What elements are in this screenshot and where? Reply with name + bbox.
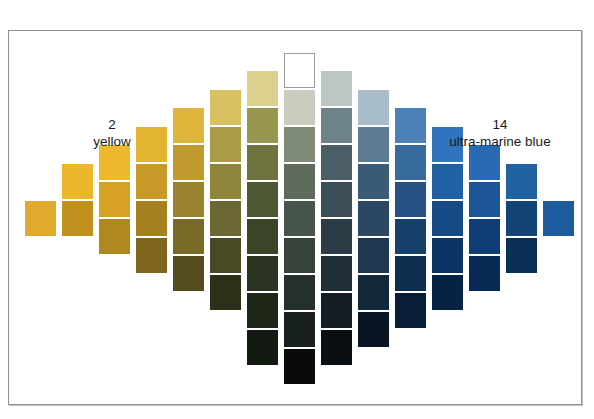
color-swatch-c12-r2 bbox=[432, 164, 463, 199]
color-swatch-c5-r5 bbox=[173, 256, 204, 291]
color-swatch-c7-r5 bbox=[247, 219, 278, 254]
color-swatch-c3-r2 bbox=[99, 182, 130, 217]
color-swatch-c5-r2 bbox=[173, 145, 204, 180]
axis-label-right-name: ultra-marine blue bbox=[417, 133, 583, 150]
color-swatch-c6-r6 bbox=[210, 275, 241, 310]
color-swatch-c10-r2 bbox=[358, 127, 389, 162]
color-swatch-c9-r7 bbox=[321, 293, 352, 328]
color-swatch-c9-r2 bbox=[321, 108, 352, 143]
color-swatch-c11-r6 bbox=[395, 293, 426, 328]
color-swatch-c8-r7 bbox=[284, 275, 315, 310]
color-swatch-c3-r1 bbox=[99, 145, 130, 180]
color-swatch-c7-r7 bbox=[247, 293, 278, 328]
color-swatch-c6-r3 bbox=[210, 164, 241, 199]
color-swatch-c9-r1 bbox=[321, 71, 352, 106]
color-swatch-c9-r3 bbox=[321, 145, 352, 180]
color-swatch-c10-r3 bbox=[358, 164, 389, 199]
color-swatch-c10-r4 bbox=[358, 201, 389, 236]
color-swatch-c3-r3 bbox=[99, 219, 130, 254]
color-swatch-c9-r8 bbox=[321, 330, 352, 365]
color-swatch-c11-r2 bbox=[395, 145, 426, 180]
color-swatch-c7-r8 bbox=[247, 330, 278, 365]
color-swatch-c14-r2 bbox=[506, 201, 537, 236]
color-swatch-c8-r5 bbox=[284, 201, 315, 236]
color-swatch-c8-r2 bbox=[284, 90, 315, 125]
color-swatch-c9-r5 bbox=[321, 219, 352, 254]
axis-label-right-number: 14 bbox=[417, 116, 583, 133]
color-swatch-c1-r1 bbox=[25, 201, 56, 236]
color-swatch-c2-r2 bbox=[62, 201, 93, 236]
color-swatch-c10-r1 bbox=[358, 90, 389, 125]
color-swatch-c5-r3 bbox=[173, 182, 204, 217]
color-swatch-c9-r4 bbox=[321, 182, 352, 217]
color-swatch-c8-r9 bbox=[284, 349, 315, 384]
swatch-grid bbox=[9, 31, 583, 406]
color-swatch-c4-r4 bbox=[136, 238, 167, 273]
color-swatch-c14-r1 bbox=[506, 164, 537, 199]
color-swatch-c13-r3 bbox=[469, 219, 500, 254]
color-swatch-c2-r1 bbox=[62, 164, 93, 199]
color-swatch-c5-r4 bbox=[173, 219, 204, 254]
color-swatch-c7-r4 bbox=[247, 182, 278, 217]
color-chart-page: 2 yellow 14 ultra-marine blue bbox=[0, 0, 594, 419]
color-swatch-c8-r1 bbox=[284, 53, 315, 88]
color-swatch-c13-r1 bbox=[469, 145, 500, 180]
axis-label-right: 14 ultra-marine blue bbox=[417, 116, 583, 150]
color-swatch-c10-r5 bbox=[358, 238, 389, 273]
color-plate-frame: 2 yellow 14 ultra-marine blue bbox=[8, 30, 582, 405]
color-swatch-c6-r1 bbox=[210, 90, 241, 125]
color-swatch-c6-r2 bbox=[210, 127, 241, 162]
color-swatch-c4-r3 bbox=[136, 201, 167, 236]
color-swatch-c11-r4 bbox=[395, 219, 426, 254]
color-swatch-c12-r4 bbox=[432, 238, 463, 273]
color-swatch-c5-r1 bbox=[173, 108, 204, 143]
color-swatch-c8-r8 bbox=[284, 312, 315, 347]
color-swatch-c13-r2 bbox=[469, 182, 500, 217]
color-swatch-c10-r6 bbox=[358, 275, 389, 310]
color-swatch-c9-r6 bbox=[321, 256, 352, 291]
color-swatch-c8-r3 bbox=[284, 127, 315, 162]
axis-label-left-name: yellow bbox=[57, 133, 167, 150]
color-swatch-c4-r2 bbox=[136, 164, 167, 199]
color-swatch-c7-r6 bbox=[247, 256, 278, 291]
color-swatch-c13-r4 bbox=[469, 256, 500, 291]
page-top-caption bbox=[100, 0, 320, 7]
color-swatch-c10-r7 bbox=[358, 312, 389, 347]
color-swatch-c12-r5 bbox=[432, 275, 463, 310]
axis-label-left: 2 yellow bbox=[57, 116, 167, 150]
color-swatch-c11-r5 bbox=[395, 256, 426, 291]
axis-label-left-number: 2 bbox=[57, 116, 167, 133]
color-swatch-c7-r1 bbox=[247, 71, 278, 106]
color-swatch-c15-r1 bbox=[543, 201, 574, 236]
color-swatch-c14-r3 bbox=[506, 238, 537, 273]
color-swatch-c6-r4 bbox=[210, 201, 241, 236]
color-swatch-c8-r4 bbox=[284, 164, 315, 199]
color-swatch-c7-r2 bbox=[247, 108, 278, 143]
color-swatch-c6-r5 bbox=[210, 238, 241, 273]
color-swatch-c12-r3 bbox=[432, 201, 463, 236]
color-swatch-c7-r3 bbox=[247, 145, 278, 180]
color-swatch-c8-r6 bbox=[284, 238, 315, 273]
color-swatch-c11-r3 bbox=[395, 182, 426, 217]
